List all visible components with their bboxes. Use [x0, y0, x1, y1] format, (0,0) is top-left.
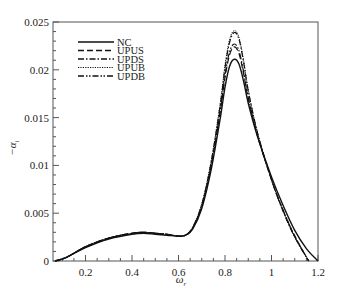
x-tick-label: 1: [269, 266, 275, 278]
plot-frame: [53, 22, 318, 261]
x-tick-label: 0.8: [218, 266, 232, 278]
series-line-upub: [55, 31, 308, 261]
y-tick-label: 0.025: [24, 16, 49, 28]
series-lines: [55, 31, 318, 261]
chart: 00.0050.010.0150.020.025 0.20.40.60.811.…: [0, 0, 340, 300]
series-line-nc: [55, 59, 318, 261]
x-tick-label: 1.2: [311, 266, 325, 278]
series-line-upus: [55, 47, 308, 261]
y-tick-label: 0: [44, 255, 50, 267]
legend-label-updb: UPDB: [117, 71, 145, 82]
y-axis: 00.0050.010.0150.020.025: [24, 16, 59, 267]
y-tick-label: 0.01: [30, 159, 49, 171]
x-tick-label: 0.2: [79, 266, 93, 278]
series-line-upds: [55, 32, 308, 261]
legend: NCUPUSUPDSUPUBUPDB: [78, 37, 145, 82]
y-tick-label: 0.005: [24, 207, 49, 219]
y-tick-label: 0.02: [30, 64, 49, 76]
x-tick-label: 0.4: [125, 266, 139, 278]
y-axis-label: −αi: [6, 140, 21, 155]
x-axis: 0.20.40.60.811.2: [62, 255, 325, 278]
y-tick-label: 0.015: [24, 112, 49, 124]
